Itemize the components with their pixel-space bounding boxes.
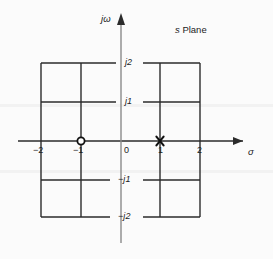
zero-marker <box>77 137 84 144</box>
x-tick-label-pos1: 1 <box>158 146 163 155</box>
y-tick-label-j1: j1 <box>125 97 132 106</box>
sigma-axis <box>18 137 243 145</box>
jomega-axis-arrowhead <box>117 13 125 25</box>
x-tick-label-pos2: 2 <box>197 146 202 155</box>
jomega-axis-label: jω <box>101 14 111 24</box>
y-tick-label-j2: j2 <box>125 58 132 67</box>
plane-title-rest: Plane <box>180 24 207 35</box>
y-tick-label-negj1: −j1 <box>118 175 131 184</box>
x-tick-label-neg1: −1 <box>73 146 83 155</box>
x-tick-label-neg2: −2 <box>33 146 43 155</box>
sigma-axis-label: σ <box>248 147 254 157</box>
s-plane-figure: −2 −1 0 1 2 j2 j1 −j1 −j2 jω σ s Plane <box>0 0 273 259</box>
origin-label: 0 <box>124 146 129 155</box>
plot-canvas <box>0 0 273 259</box>
sigma-axis-arrowhead <box>233 137 243 145</box>
y-tick-label-negj2: −j2 <box>118 212 131 221</box>
plane-title: s Plane <box>175 24 207 35</box>
jomega-axis <box>117 13 125 243</box>
